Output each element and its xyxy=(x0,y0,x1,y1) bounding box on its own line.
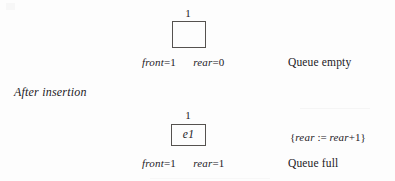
annotation-rhs-variable: rear xyxy=(329,131,348,143)
scan-artifact xyxy=(300,108,370,109)
queue-figure: 1 front=1 rear=0 Queue empty After inser… xyxy=(0,0,395,181)
rear-pointer-value: 1 xyxy=(219,157,225,169)
rear-pointer-label: rear xyxy=(193,157,212,169)
state-caption-queue-full: Queue full xyxy=(288,157,338,169)
pointer-state-line: front=1 rear=1 xyxy=(142,157,224,169)
front-pointer-value: 1 xyxy=(170,56,176,68)
operation-annotation: {rear := rear+1} xyxy=(290,131,366,143)
assignment-operator: := xyxy=(317,131,326,143)
queue-cell-filled: e1 xyxy=(171,124,206,146)
front-pointer-label: front xyxy=(142,157,164,169)
front-pointer-label: front xyxy=(142,56,164,68)
annotation-lhs: rear xyxy=(295,131,314,143)
queue-cell-value: e1 xyxy=(183,129,194,141)
rear-pointer-value: 0 xyxy=(219,56,225,68)
front-pointer-value: 1 xyxy=(170,157,176,169)
scan-artifact xyxy=(6,3,15,10)
scan-artifact xyxy=(150,178,270,179)
state-caption-queue-empty: Queue empty xyxy=(288,56,351,68)
cell-index-label: 1 xyxy=(170,110,206,121)
cell-index-label: 1 xyxy=(170,8,206,19)
close-brace: } xyxy=(360,131,365,143)
queue-cell-empty xyxy=(172,21,206,48)
pointer-state-line: front=1 rear=0 xyxy=(142,56,224,68)
section-label-after-insertion: After insertion xyxy=(14,86,87,99)
rear-pointer-label: rear xyxy=(193,56,212,68)
